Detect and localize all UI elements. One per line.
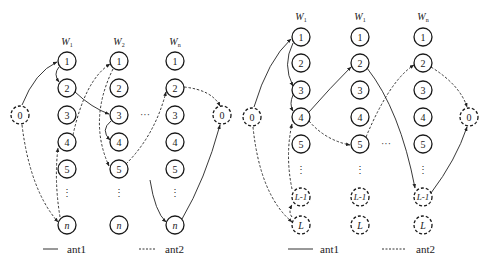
svg-text:0: 0 [220,110,225,121]
svg-text:2: 2 [173,83,178,94]
svg-text:5: 5 [358,139,363,150]
left-diagram: W1 W2 Wn 0 0 ··· 1 2 3 4 [11,36,231,255]
legend-ant1-label: ant1 [320,243,339,255]
edge-ant1-w2n3-w2n4 [105,121,111,140]
edge-ant1-wnnl1-end [431,127,467,193]
end-node: 0 [460,108,478,126]
svg-text:⋮: ⋮ [114,187,124,198]
column-label-w2: W2 [113,36,124,48]
column-w2: 1 2 3 4 5 ⋮ n [110,52,128,234]
edge-ant1-w1n4-w2n2 [309,67,351,112]
svg-text:5: 5 [173,164,178,175]
svg-text:L: L [356,220,363,231]
edge-ant2-wnn2-end [431,67,467,107]
svg-text:1: 1 [117,56,122,67]
column-w2: 1 2 3 4 5 ⋮ L-1 L [351,28,369,234]
svg-text:2: 2 [358,58,363,69]
start-node: 0 [243,108,261,126]
svg-text:⋮: ⋮ [170,187,180,198]
svg-text:4: 4 [421,112,426,123]
column-label-w1: W1 [295,11,306,23]
legend-ant1-label: ant1 [67,243,86,255]
column-ellipsis: ··· [140,109,150,120]
column-wn: 1 2 3 4 5 ⋮ n [166,52,184,234]
svg-text:2: 2 [421,58,426,69]
svg-text:⋮: ⋮ [418,164,428,175]
svg-text:1: 1 [173,56,178,67]
column-wn: 1 2 3 4 5 ⋮ L-1 L [414,28,432,234]
svg-text:4: 4 [173,137,178,148]
edge-ant2-w1n4-w2n5 [309,121,350,145]
svg-text:3: 3 [117,110,122,121]
svg-text:1: 1 [358,32,363,43]
svg-text:0: 0 [467,112,472,123]
ant-path-diagrams: W1 W2 Wn 0 0 ··· 1 2 3 4 [0,0,485,265]
svg-text:0: 0 [18,110,23,121]
svg-text:3: 3 [421,85,426,96]
edge-ant2-0-w1nl [253,127,292,222]
svg-text:2: 2 [65,83,70,94]
svg-text:L-1: L-1 [416,192,430,202]
legend-ant2-label: ant2 [416,243,435,255]
svg-text:5: 5 [65,164,70,175]
column-w1: 1 2 3 4 5 ⋮ L-1 L [292,28,310,234]
edge-ant2-w1n4-w2n1 [73,64,110,135]
edge-ant2-wnn2-end [184,87,220,106]
svg-text:1: 1 [65,56,70,67]
right-diagram: W1 W1 Wn 0 0 ··· 1 2 3 4 5 [243,11,478,255]
edge-ant2-w1nl-w1nl1 [290,205,292,217]
edge-ant2-w1nl1-w1n4 [289,124,293,189]
svg-text:⋮: ⋮ [62,187,72,198]
column-label-w2: W1 [354,11,365,23]
svg-text:L-1: L-1 [353,192,367,202]
legend-ant2-label: ant2 [165,243,184,255]
edge-ant1-w1n1-w1n2 [56,67,59,82]
column-w1: 1 2 3 4 5 ⋮ n [58,52,76,234]
svg-text:⋮: ⋮ [355,164,365,175]
svg-text:L-1: L-1 [294,192,308,202]
column-label-wn: Wn [169,36,180,48]
svg-text:5: 5 [421,139,426,150]
svg-text:4: 4 [117,137,122,148]
svg-text:3: 3 [358,85,363,96]
legend-right: ant1 ant2 [288,243,435,255]
edge-ant2-0-w1nn [22,125,58,222]
svg-text:n: n [173,220,178,231]
svg-text:L: L [297,220,304,231]
svg-text:4: 4 [65,137,70,148]
edge-ant1-w1n3-w1n4 [291,95,293,111]
end-node: 0 [213,106,231,124]
svg-text:2: 2 [117,83,122,94]
edge-ant2-w1nn-w1n4 [56,148,60,217]
legend-left: ant1 ant2 [43,243,184,255]
edge-ant1-ellipsis-wnnn [150,180,166,222]
column-label-wn: Wn [417,11,428,23]
edge-ant2-w2n5-wnn2 [126,92,166,164]
svg-text:4: 4 [358,112,363,123]
edge-ant1-w1n2-w2n3 [75,92,109,114]
svg-text:4: 4 [299,112,304,123]
svg-text:1: 1 [299,32,304,43]
edge-ant1-w2n2-wnnl1 [367,68,415,188]
edge-ant1-0-w1n1 [22,62,57,105]
svg-text:3: 3 [299,85,304,96]
column-label-w1: W1 [61,36,72,48]
svg-text:2: 2 [299,58,304,69]
start-node: 0 [11,106,29,124]
column-ellipsis: ··· [381,138,391,149]
svg-text:5: 5 [117,164,122,175]
svg-text:0: 0 [250,112,255,123]
svg-text:3: 3 [65,110,70,121]
svg-text:⋮: ⋮ [296,164,306,175]
svg-text:n: n [117,220,122,231]
svg-text:n: n [65,220,70,231]
svg-text:1: 1 [421,32,426,43]
svg-text:3: 3 [173,110,178,121]
edge-ant1-0-w1n1 [254,39,291,107]
edge-ant1-wnnn-end [182,125,220,219]
svg-text:5: 5 [299,139,304,150]
svg-text:L: L [419,220,426,231]
